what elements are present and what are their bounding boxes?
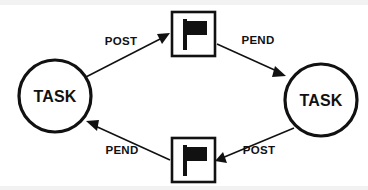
edge-pend-top-arrowhead (272, 66, 286, 77)
diagram-canvas: POST PEND POST PEND TASK TAS (0, 0, 368, 190)
flag-top-banner (187, 21, 207, 35)
diagram-graphic: POST PEND POST PEND TASK TAS (0, 0, 368, 190)
edge-pend-top-line (217, 44, 279, 72)
task-right-label: TASK (299, 92, 342, 109)
edge-post-bottom: POST (215, 128, 294, 163)
edge-pend-bottom-arrowhead (86, 120, 99, 131)
edge-post-top: POST (82, 33, 170, 79)
flag-bottom-pole (183, 145, 187, 176)
flag-top-pole (183, 19, 187, 50)
node-flag-bottom[interactable] (172, 138, 215, 182)
edge-post-top-label: POST (105, 35, 138, 47)
node-task-left[interactable]: TASK (19, 60, 91, 132)
edge-post-bottom-label: POST (243, 144, 276, 156)
edge-pend-top-label: PEND (241, 34, 274, 46)
edge-post-bottom-arrowhead (215, 152, 227, 163)
node-flag-top[interactable] (172, 12, 215, 56)
edge-post-top-arrowhead (157, 33, 170, 44)
edge-pend-bottom: PEND (86, 120, 170, 160)
edge-pend-top: PEND (217, 34, 286, 77)
edge-pend-bottom-label: PEND (105, 144, 138, 156)
flag-bottom-banner (187, 147, 207, 161)
node-task-right[interactable]: TASK (285, 64, 357, 136)
task-left-label: TASK (33, 88, 76, 105)
